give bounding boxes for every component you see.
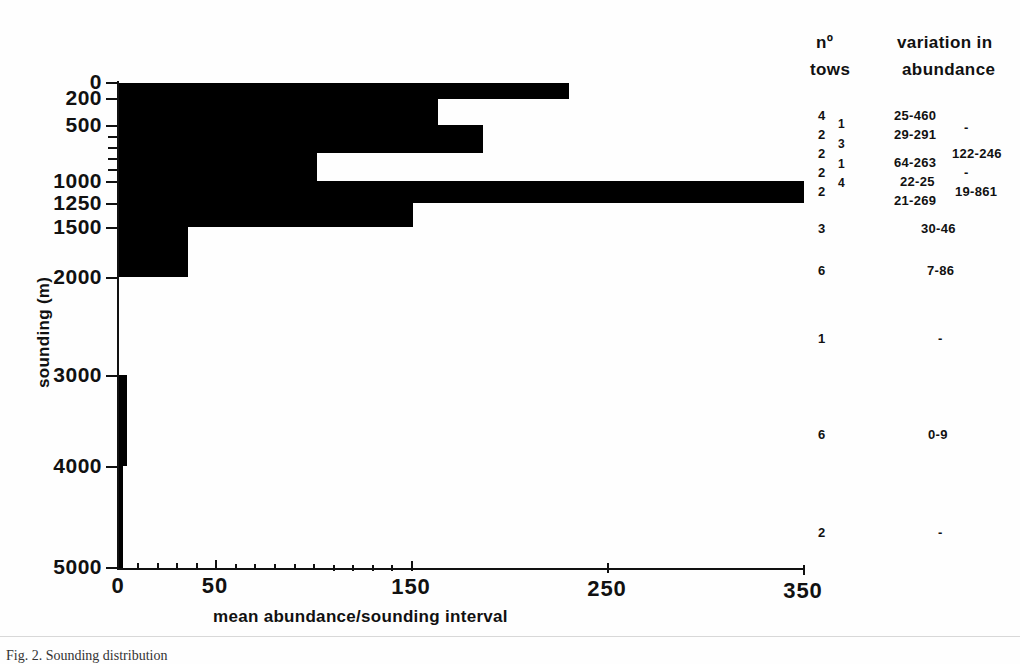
x-tick-label-0: 0 bbox=[98, 573, 138, 599]
x-axis-title: mean abundance/sounding interval bbox=[213, 607, 508, 627]
x-tick-minor-140 bbox=[391, 565, 393, 571]
table-row: - bbox=[938, 525, 943, 540]
x-tick-minor-130 bbox=[372, 565, 374, 571]
table-row: 4 bbox=[818, 108, 826, 123]
figure-container: 0 200 500 1000 1250 1500 2000 3000 4000 … bbox=[0, 0, 1020, 664]
y-tick-1500 bbox=[106, 227, 118, 229]
table-header-tows-line1: nº bbox=[816, 33, 833, 53]
table-row: 7-86 bbox=[927, 263, 954, 278]
bar-3000-4000 bbox=[119, 375, 127, 466]
x-tick-label-150: 150 bbox=[380, 574, 442, 600]
bar-1500-2000 bbox=[119, 227, 188, 277]
table-row: 30-46 bbox=[921, 221, 956, 236]
y-tick-0 bbox=[106, 82, 118, 84]
y-tick-500 bbox=[106, 125, 118, 127]
table-row: 1 bbox=[818, 331, 826, 346]
bar-750-1000 bbox=[119, 153, 317, 181]
y-tick-label-1000: 1000 bbox=[36, 169, 102, 193]
y-tick-200 bbox=[106, 98, 118, 100]
y-tick-3000 bbox=[106, 375, 118, 377]
x-tick-minor-30 bbox=[176, 563, 178, 570]
table-row: 19-861 bbox=[955, 184, 997, 199]
x-tick-minor-20 bbox=[157, 563, 159, 570]
table-row: 2 bbox=[818, 165, 826, 180]
y-tick-label-200: 200 bbox=[36, 86, 102, 110]
figure-caption: Fig. 2. Sounding distribution bbox=[6, 648, 167, 664]
x-tick-label-250: 250 bbox=[576, 576, 638, 602]
x-tick-label-50: 50 bbox=[190, 573, 240, 599]
table-header-tows-line2: tows bbox=[810, 60, 850, 80]
x-axis-line bbox=[117, 568, 805, 570]
bar-500-750 bbox=[119, 125, 483, 153]
x-tick-minor-80 bbox=[274, 564, 276, 570]
x-tick-minor-110 bbox=[333, 565, 335, 571]
y-tick-minor-700 bbox=[108, 147, 118, 149]
table-row: 22-25 bbox=[900, 174, 935, 189]
table-row: - bbox=[964, 165, 969, 180]
table-header-variation-line2: abundance bbox=[902, 60, 995, 80]
bar-4000-5000 bbox=[119, 466, 123, 568]
y-tick-1250 bbox=[106, 203, 118, 205]
y-tick-minor-600 bbox=[108, 136, 118, 138]
x-tick-minor-90 bbox=[294, 564, 296, 570]
table-row: 29-291 bbox=[894, 127, 936, 142]
table-row: 25-460 bbox=[894, 108, 936, 123]
table-row: 0-9 bbox=[928, 427, 948, 442]
table-row: 6 bbox=[818, 427, 826, 442]
x-tick-350 bbox=[803, 565, 805, 575]
table-row: 21-269 bbox=[894, 193, 936, 208]
y-tick-minor-800 bbox=[108, 158, 118, 160]
y-tick-4000 bbox=[106, 466, 118, 468]
bar-1250-1500 bbox=[119, 203, 413, 227]
x-tick-minor-100 bbox=[313, 564, 315, 570]
caption-divider bbox=[0, 636, 1020, 637]
table-row: 3 bbox=[838, 137, 845, 151]
table-header-variation-line1: variation in bbox=[897, 33, 993, 53]
y-axis-title: sounding (m) bbox=[34, 277, 54, 388]
table-row: 1 bbox=[838, 157, 845, 171]
table-row: 2 bbox=[818, 127, 826, 142]
table-row: - bbox=[938, 331, 943, 346]
x-tick-minor-10 bbox=[137, 563, 139, 570]
x-tick-minor-120 bbox=[352, 565, 354, 571]
table-row: 3 bbox=[818, 221, 826, 236]
bar-0-200 bbox=[119, 83, 569, 99]
x-tick-minor-70 bbox=[254, 564, 256, 570]
table-row: - bbox=[964, 120, 969, 135]
bar-200-500 bbox=[119, 99, 438, 125]
table-row: 1 bbox=[838, 117, 845, 131]
x-tick-label-350: 350 bbox=[772, 578, 834, 604]
x-tick-50 bbox=[215, 560, 217, 570]
table-row: 122-246 bbox=[952, 146, 1002, 161]
x-tick-150 bbox=[411, 561, 413, 571]
y-tick-2000 bbox=[106, 277, 118, 279]
table-row: 2 bbox=[818, 146, 826, 161]
y-tick-label-5000: 5000 bbox=[36, 555, 102, 579]
y-tick-minor-900 bbox=[108, 169, 118, 171]
y-tick-label-1500: 1500 bbox=[36, 215, 102, 239]
table-row: 6 bbox=[818, 263, 826, 278]
bar-1000-1250 bbox=[119, 181, 804, 203]
table-row: 2 bbox=[818, 184, 826, 199]
y-tick-label-4000: 4000 bbox=[36, 454, 102, 478]
y-tick-label-1250: 1250 bbox=[36, 191, 102, 215]
x-tick-minor-60 bbox=[235, 564, 237, 570]
y-tick-1000 bbox=[106, 181, 118, 183]
table-row: 4 bbox=[838, 176, 845, 190]
x-tick-250 bbox=[607, 563, 609, 573]
y-tick-label-500: 500 bbox=[36, 113, 102, 137]
table-row: 64-263 bbox=[894, 155, 936, 170]
table-row: 2 bbox=[818, 525, 826, 540]
x-tick-minor-40 bbox=[196, 563, 198, 570]
